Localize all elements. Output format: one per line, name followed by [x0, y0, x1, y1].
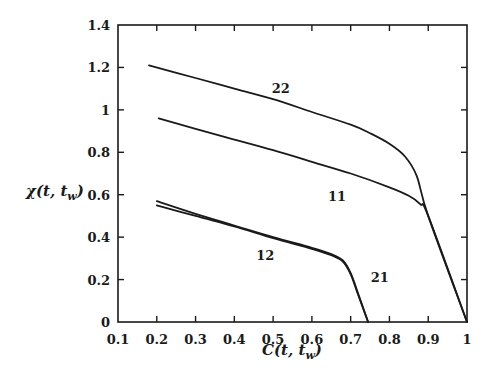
plot-frame	[118, 25, 467, 322]
y-tick-label: 0	[101, 315, 110, 330]
curve-label-11: 11	[328, 189, 346, 204]
y-axis-title: χ(t, tw)	[25, 182, 84, 203]
curves	[149, 65, 467, 322]
curve-label-12: 12	[256, 248, 274, 263]
y-tick-label: 1	[101, 103, 110, 118]
x-axis-ticks: 0.10.20.30.40.50.60.70.80.91	[107, 25, 472, 347]
plot-border	[118, 25, 467, 322]
x-tick-label: 0.4	[223, 332, 246, 347]
chart: 0.10.20.30.40.50.60.70.80.91 00.20.40.60…	[0, 0, 492, 387]
x-tick-label: 0.1	[107, 332, 130, 347]
curve-21	[157, 205, 368, 322]
x-tick-label: 0.9	[417, 332, 440, 347]
y-tick-label: 0.6	[87, 188, 110, 203]
curve-labels: 22111221	[256, 81, 388, 285]
y-tick-label: 0.8	[87, 145, 110, 160]
curve-label-22: 22	[272, 81, 290, 96]
y-tick-label: 0.4	[87, 230, 110, 245]
x-tick-label: 0.7	[339, 332, 362, 347]
y-tick-label: 0.2	[87, 273, 110, 288]
y-axis-ticks: 00.20.40.60.811.21.4	[87, 18, 467, 330]
x-tick-label: 0.2	[145, 332, 168, 347]
curve-22	[149, 65, 467, 322]
curve-11	[159, 118, 467, 322]
x-tick-label: 0.8	[378, 332, 401, 347]
y-tick-label: 1.4	[87, 18, 110, 33]
x-tick-label: 0.3	[184, 332, 207, 347]
x-tick-label: 1	[462, 332, 471, 347]
y-tick-label: 1.2	[87, 60, 110, 75]
curve-label-21: 21	[371, 270, 389, 285]
